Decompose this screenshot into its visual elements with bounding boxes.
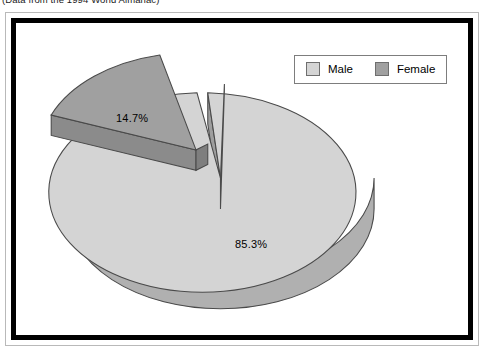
legend-entry-female[interactable]: Female xyxy=(375,62,435,76)
data-label-female: 14.7% xyxy=(116,112,148,124)
chart-legend: Male Female xyxy=(294,55,447,84)
pie-chart-plot-area: 14.7% 85.3% Male Female xyxy=(16,23,468,335)
source-caption: (Data from the 1994 World Almanac) xyxy=(2,0,159,5)
figure-frame-inner-border: 14.7% 85.3% Male Female xyxy=(11,18,473,340)
legend-label-male: Male xyxy=(328,63,353,75)
legend-entry-male[interactable]: Male xyxy=(306,62,353,76)
legend-label-female: Female xyxy=(397,63,435,75)
legend-swatch-female-icon xyxy=(375,62,389,76)
data-label-male: 85.3% xyxy=(235,238,267,250)
figure-frame: 14.7% 85.3% Male Female xyxy=(5,12,479,346)
legend-swatch-male-icon xyxy=(306,62,320,76)
